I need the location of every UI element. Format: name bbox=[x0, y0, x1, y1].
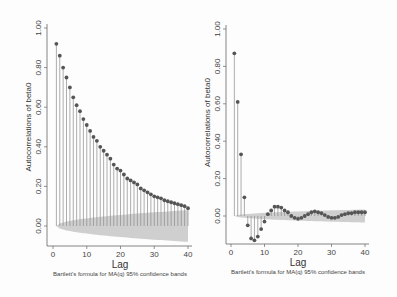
data-point bbox=[346, 211, 350, 215]
data-point bbox=[139, 186, 143, 190]
y-tick-label: 0.60 bbox=[213, 95, 222, 111]
y-tick-label: 0.00 bbox=[213, 208, 222, 224]
data-point bbox=[112, 163, 116, 167]
x-tick-label: 10 bbox=[260, 248, 269, 257]
data-point bbox=[105, 153, 109, 157]
correlogram-figure: 0.000.200.400.600.801.00010203040Autocor… bbox=[0, 0, 397, 297]
data-point bbox=[343, 212, 347, 216]
data-point bbox=[286, 210, 290, 214]
data-point bbox=[88, 129, 92, 133]
left-correlogram: 0.000.200.400.600.801.00010203040Autocor… bbox=[24, 20, 193, 277]
data-point bbox=[246, 223, 250, 227]
data-point bbox=[320, 211, 324, 215]
y-axis-label: Autocorrelations of beta0 bbox=[24, 82, 33, 171]
y-tick-label: 0.00 bbox=[34, 218, 43, 234]
data-point bbox=[119, 169, 123, 173]
data-point bbox=[68, 86, 72, 90]
data-point bbox=[129, 179, 133, 183]
data-point bbox=[92, 135, 96, 139]
data-point bbox=[336, 215, 340, 219]
data-point bbox=[293, 216, 297, 220]
y-tick-label: 0.40 bbox=[34, 138, 43, 154]
data-point bbox=[323, 213, 327, 217]
data-point bbox=[75, 103, 79, 107]
x-axis-label: Lag bbox=[290, 257, 307, 268]
data-point bbox=[71, 95, 75, 99]
y-axis-label: Autocorrelations of beta0 bbox=[203, 77, 212, 166]
data-point bbox=[283, 208, 287, 212]
data-point bbox=[256, 235, 260, 239]
x-tick-label: 0 bbox=[229, 248, 234, 257]
data-point bbox=[115, 167, 119, 171]
data-point bbox=[253, 238, 257, 242]
data-point bbox=[350, 211, 354, 215]
data-point bbox=[340, 213, 344, 217]
data-point bbox=[269, 208, 273, 212]
data-point bbox=[156, 195, 160, 199]
data-point bbox=[122, 173, 126, 177]
data-point bbox=[310, 210, 314, 214]
x-tick-label: 20 bbox=[294, 248, 303, 257]
data-point bbox=[186, 206, 190, 210]
data-point bbox=[326, 215, 330, 219]
data-point bbox=[95, 139, 99, 143]
data-point bbox=[176, 202, 180, 206]
data-point bbox=[132, 181, 136, 185]
data-point bbox=[78, 109, 82, 113]
x-tick-label: 0 bbox=[51, 250, 56, 259]
chart-caption: Bartlett's formula for MA(q) 95% confide… bbox=[53, 271, 187, 277]
y-tick-label: 1.00 bbox=[213, 21, 222, 37]
data-point bbox=[313, 209, 317, 213]
data-point bbox=[289, 214, 293, 218]
x-tick-label: 40 bbox=[361, 248, 370, 257]
data-point bbox=[316, 210, 320, 214]
data-point bbox=[142, 188, 146, 192]
data-point bbox=[102, 149, 106, 153]
data-point bbox=[54, 42, 58, 46]
data-point bbox=[98, 145, 102, 149]
data-point bbox=[236, 100, 240, 104]
data-point bbox=[259, 227, 263, 231]
data-point bbox=[273, 205, 277, 209]
data-point bbox=[149, 192, 153, 196]
data-point bbox=[249, 237, 253, 241]
data-point bbox=[85, 123, 89, 127]
y-tick-label: 0.80 bbox=[34, 59, 43, 75]
data-point bbox=[303, 214, 307, 218]
y-tick-label: 0.40 bbox=[213, 133, 222, 149]
data-point bbox=[173, 201, 177, 205]
data-point bbox=[239, 152, 243, 156]
y-tick-label: 1.00 bbox=[34, 20, 43, 36]
data-point bbox=[353, 210, 357, 214]
data-point bbox=[299, 216, 303, 220]
right-correlogram: 0.000.200.400.600.801.00010203040Autocor… bbox=[203, 21, 370, 275]
data-point bbox=[330, 216, 334, 220]
data-point bbox=[152, 194, 156, 198]
confidence-band bbox=[56, 210, 188, 242]
chart-caption: Bartlett's formula for MA(q) 95% confide… bbox=[231, 269, 365, 275]
data-point bbox=[276, 205, 280, 209]
data-point bbox=[183, 204, 187, 208]
data-point bbox=[159, 196, 163, 200]
x-tick-label: 20 bbox=[116, 250, 125, 259]
data-point bbox=[363, 210, 367, 214]
data-point bbox=[65, 76, 69, 80]
data-point bbox=[146, 190, 150, 194]
data-point bbox=[61, 66, 65, 70]
data-point bbox=[162, 198, 166, 202]
data-point bbox=[279, 206, 283, 210]
x-axis-label: Lag bbox=[112, 259, 129, 270]
data-point bbox=[243, 195, 247, 199]
x-tick-label: 30 bbox=[327, 248, 336, 257]
data-point bbox=[166, 199, 170, 203]
data-point bbox=[263, 220, 267, 224]
data-point bbox=[58, 54, 62, 58]
x-tick-label: 10 bbox=[82, 250, 91, 259]
data-point bbox=[360, 210, 364, 214]
data-point bbox=[81, 117, 85, 121]
y-tick-label: 0.20 bbox=[213, 170, 222, 186]
data-point bbox=[306, 212, 310, 216]
x-tick-label: 40 bbox=[184, 250, 193, 259]
x-tick-label: 30 bbox=[150, 250, 159, 259]
y-tick-label: 0.80 bbox=[213, 58, 222, 74]
